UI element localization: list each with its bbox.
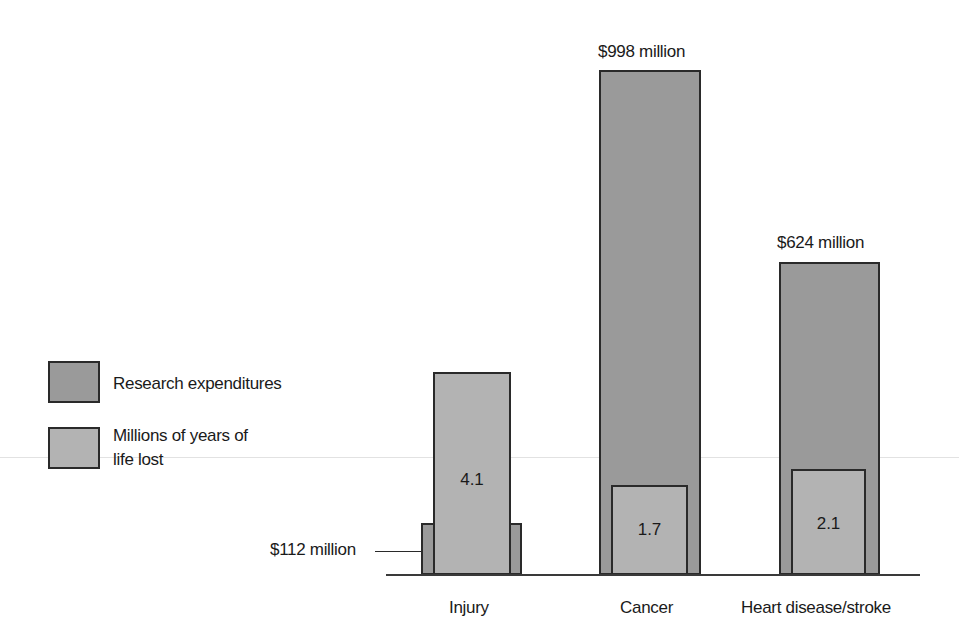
legend-swatch-research — [48, 361, 100, 403]
value-heart-years-lost: 2.1 — [791, 514, 866, 534]
legend-label-research: Research expenditures — [113, 373, 282, 395]
legend-label-years-lost-1: Millions of years of — [113, 425, 248, 447]
annotation-cancer-research: $998 million — [598, 42, 685, 62]
x-axis-baseline — [386, 574, 920, 576]
x-label-injury: Injury — [449, 598, 489, 618]
annotation-leader-line — [375, 551, 421, 552]
value-cancer-years-lost: 1.7 — [611, 520, 688, 540]
legend-swatch-years-lost — [48, 427, 100, 469]
value-injury-years-lost: 4.1 — [433, 470, 511, 490]
annotation-injury-research: $112 million — [270, 540, 356, 560]
legend-label-years-lost-2: life lost — [113, 449, 163, 471]
x-label-cancer: Cancer — [620, 598, 673, 618]
x-label-heart: Heart disease/stroke — [741, 598, 891, 618]
annotation-heart-research: $624 million — [777, 233, 864, 253]
